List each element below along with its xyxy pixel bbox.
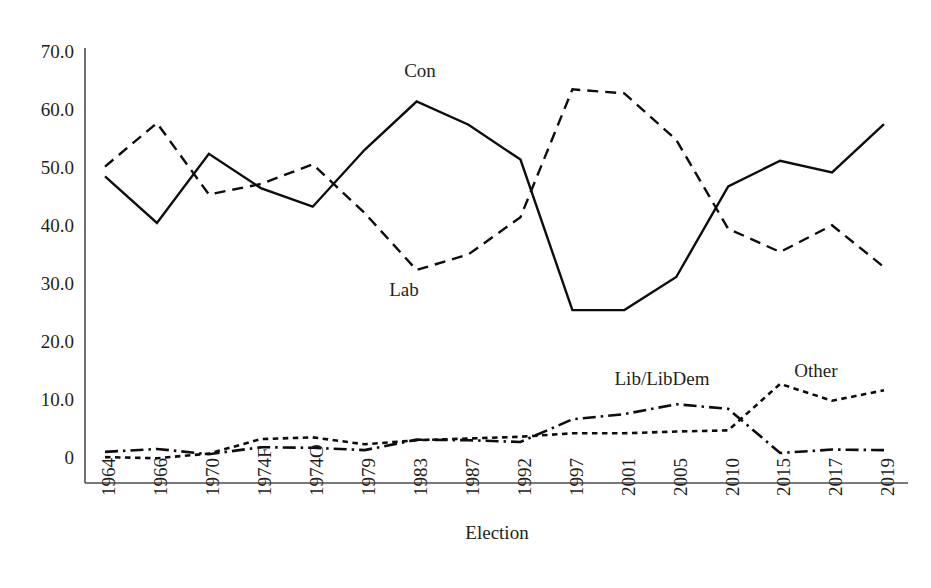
series-annotation-lab: Lab	[389, 279, 419, 300]
y-axis-tick-labels: 010.020.030.040.050.060.070.0	[41, 41, 74, 469]
y-tick-label: 20.0	[41, 331, 74, 352]
axis-lines	[85, 48, 908, 483]
x-tick-label: 2015	[773, 458, 794, 496]
series-annotation-other: Other	[794, 360, 838, 381]
y-tick-label: 70.0	[41, 41, 74, 62]
x-tick-label: 2005	[670, 458, 691, 496]
series-group	[105, 89, 884, 458]
x-tick-label: 1974F	[254, 447, 275, 496]
x-tick-label: 1983	[410, 458, 431, 496]
series-line-lib-libdem	[105, 404, 884, 454]
y-tick-label: 50.0	[41, 157, 74, 178]
y-tick-label: 60.0	[41, 99, 74, 120]
series-line-lab	[105, 89, 884, 270]
series-line-other	[105, 384, 884, 458]
x-tick-label: 1970	[202, 458, 223, 496]
x-tick-label: 1987	[462, 458, 483, 496]
x-tick-label: 2010	[722, 458, 743, 496]
x-tick-label: 2017	[825, 458, 846, 496]
y-tick-label: 10.0	[41, 389, 74, 410]
series-annotations: ConLabLib/LibDemOther	[389, 60, 838, 389]
x-tick-label: 2001	[618, 458, 639, 496]
x-tick-label: 1974O	[306, 444, 327, 496]
y-tick-label: 0	[65, 447, 75, 468]
x-tick-label: 1966	[150, 458, 171, 496]
x-tick-label: 1979	[358, 458, 379, 496]
y-tick-label: 40.0	[41, 215, 74, 236]
series-annotation-con: Con	[404, 60, 436, 81]
x-tick-label: 1997	[566, 458, 587, 496]
series-line-con	[105, 102, 884, 311]
x-tick-label: 1964	[98, 458, 119, 497]
x-tick-label: 1992	[514, 458, 535, 496]
y-tick-label: 30.0	[41, 273, 74, 294]
election-seat-share-chart: 010.020.030.040.050.060.070.0 1964196619…	[0, 0, 931, 588]
x-axis-title: Election	[465, 522, 529, 543]
x-tick-label: 2019	[877, 458, 898, 496]
chart-canvas: 010.020.030.040.050.060.070.0 1964196619…	[0, 0, 931, 588]
series-annotation-lib-libdem: Lib/LibDem	[615, 368, 710, 389]
